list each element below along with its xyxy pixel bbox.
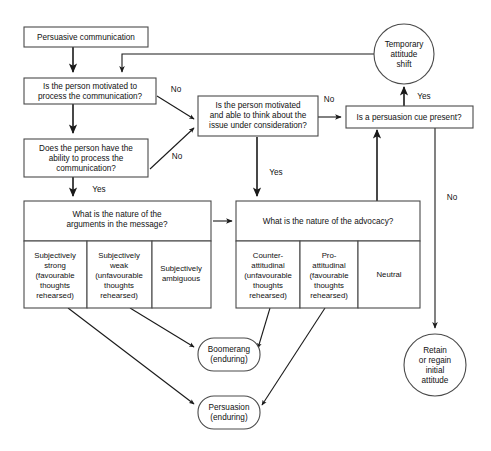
edge-strong-to-persuasion bbox=[68, 308, 194, 404]
message-cell0-line-0: Subjectively bbox=[34, 251, 76, 260]
table-advocacy-nature: What is the nature of the advocacy? Coun… bbox=[236, 201, 420, 308]
node-temporary-line-0: Temporary bbox=[385, 40, 425, 49]
node-think-line-1: and able to think about the bbox=[210, 111, 307, 120]
message-cell1-line-4: rehearsed) bbox=[100, 291, 138, 300]
table-cell-pro-attitudinal: Pro- attitudinal (favourable thoughts re… bbox=[300, 241, 358, 308]
advocacy-cell0-line-0: Counter- bbox=[253, 251, 284, 260]
advocacy-header-line-0: What is the nature of the advocacy? bbox=[263, 217, 394, 226]
node-motivated-line-1: process the communication? bbox=[38, 92, 143, 101]
message-cell0-line-3: thoughts bbox=[40, 281, 70, 290]
edge-motivated-no bbox=[157, 96, 194, 119]
node-ability-line-2: communication? bbox=[56, 164, 116, 173]
table-cell-counter-attitudinal: Counter- attitudinal (unfavourable thoug… bbox=[236, 241, 300, 308]
advocacy-cell0-line-2: (unfavourable bbox=[244, 271, 292, 280]
node-ability-line-0: Does the person have the bbox=[39, 144, 133, 153]
node-boomerang-line-0: Boomerang bbox=[208, 345, 251, 354]
edge-label-ability-yes: Yes bbox=[92, 185, 105, 194]
advocacy-cell1-line-0: Pro- bbox=[322, 251, 337, 260]
node-motivated-line-0: Is the person motivated to bbox=[43, 82, 138, 91]
node-temporary-attitude-shift: Temporary attitude shift bbox=[374, 24, 434, 84]
edge-counter-to-boomerang bbox=[258, 308, 270, 348]
table-cell-subjectively-weak: Subjectively weak (unfavourable thoughts… bbox=[87, 241, 152, 308]
node-retain-line-1: or regain bbox=[419, 356, 452, 365]
node-persuasion-line-0: Persuasion bbox=[209, 403, 250, 412]
edge-label-think-yes: Yes bbox=[269, 168, 282, 177]
node-retain-line-0: Retain bbox=[423, 346, 447, 355]
message-cell1-line-3: thoughts bbox=[104, 281, 134, 290]
table-cell-neutral: Neutral bbox=[358, 241, 420, 308]
table-message-arguments: What is the nature of the arguments in t… bbox=[24, 201, 211, 308]
edge-ability-no bbox=[150, 128, 194, 169]
advocacy-cell1-line-3: thoughts bbox=[314, 281, 344, 290]
advocacy-cell0-line-1: attitudinal bbox=[251, 261, 285, 270]
advocacy-cell2-line-0: Neutral bbox=[376, 270, 401, 279]
message-header-line-0: What is the nature of the bbox=[72, 210, 162, 219]
node-think-line-0: Is the person motivated bbox=[215, 101, 301, 110]
message-header-line-1: arguments in the message? bbox=[66, 220, 167, 229]
node-retain-line-2: initial bbox=[426, 366, 445, 375]
edge-label-cue-yes: Yes bbox=[417, 92, 430, 101]
message-cell2-line-0: Subjectively bbox=[160, 264, 202, 273]
node-persuasive-communication: Persuasive communication bbox=[24, 27, 148, 47]
node-temporary-line-2: shift bbox=[396, 60, 412, 69]
edge-label-motivated-no: No bbox=[171, 85, 182, 94]
node-is-persuasion-cue-present: Is a persuasion cue present? bbox=[346, 106, 473, 128]
node-is-person-motivated: Is the person motivated to process the c… bbox=[24, 78, 156, 104]
message-cell0-line-1: strong bbox=[44, 261, 66, 270]
advocacy-cell1-line-4: rehearsed) bbox=[310, 291, 348, 300]
node-persuasion: Persuasion (enduring) bbox=[198, 396, 260, 429]
edge-pro-to-persuasion bbox=[262, 308, 325, 405]
edge-label-cue-no: No bbox=[447, 193, 458, 202]
node-is-person-motivated-and-able: Is the person motivated and able to thin… bbox=[198, 96, 318, 136]
table-cell-subjectively-strong: Subjectively strong (favourable thoughts… bbox=[24, 241, 87, 308]
node-boomerang-line-1: (enduring) bbox=[210, 355, 248, 364]
message-cell0-line-2: (favourable bbox=[35, 271, 74, 280]
node-persuasion-line-1: (enduring) bbox=[210, 413, 248, 422]
edge-weak-to-boomerang bbox=[130, 308, 194, 347]
message-cell1-line-1: weak bbox=[109, 261, 128, 270]
node-does-person-have-ability: Does the person have the ability to proc… bbox=[24, 139, 148, 177]
edge-label-ability-no: No bbox=[172, 152, 183, 161]
message-cell1-line-2: (unfavourable bbox=[95, 271, 143, 280]
message-cell1-line-0: Subjectively bbox=[98, 251, 140, 260]
flowchart-svg: No No Yes No Yes Yes No Persuasive commu… bbox=[0, 0, 491, 451]
node-retain-or-regain-initial-attitude: Retain or regain initial attitude bbox=[404, 334, 466, 396]
advocacy-cell0-line-4: rehearsed) bbox=[249, 291, 287, 300]
node-temporary-line-1: attitude bbox=[391, 50, 418, 59]
node-ability-line-1: ability to process the bbox=[49, 154, 124, 163]
message-cell2-line-1: ambiguous bbox=[162, 274, 200, 283]
advocacy-cell0-line-3: thoughts bbox=[253, 281, 283, 290]
node-cue-line-0: Is a persuasion cue present? bbox=[356, 113, 462, 122]
table-cell-subjectively-ambiguous: Subjectively ambiguous bbox=[152, 241, 211, 308]
message-cell0-line-4: rehearsed) bbox=[36, 291, 74, 300]
node-start-line-0: Persuasive communication bbox=[37, 33, 135, 42]
edge-label-think-no: No bbox=[324, 95, 335, 104]
node-boomerang: Boomerang (enduring) bbox=[198, 338, 260, 371]
advocacy-cell1-line-2: (favourable bbox=[309, 271, 348, 280]
flowchart-canvas: No No Yes No Yes Yes No Persuasive commu… bbox=[0, 0, 491, 451]
node-think-line-2: issue under consideration? bbox=[209, 121, 307, 130]
edge-temporary-feedback bbox=[122, 54, 374, 72]
advocacy-cell1-line-1: attitudinal bbox=[312, 261, 346, 270]
node-retain-line-3: attitude bbox=[422, 376, 449, 385]
